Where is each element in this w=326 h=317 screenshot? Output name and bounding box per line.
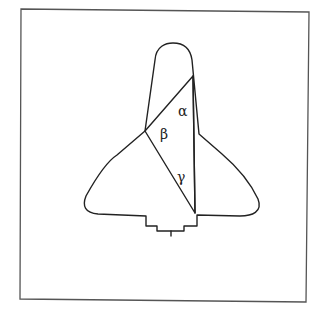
angle-beta-label: β xyxy=(160,126,168,142)
angle-gamma-label: γ xyxy=(177,169,185,185)
angle-alpha-label: α xyxy=(178,103,188,119)
diagram-frame xyxy=(20,9,309,302)
shuttle-outline xyxy=(84,43,259,231)
shuttle-diagram: α β γ xyxy=(0,0,326,317)
inscribed-triangle xyxy=(145,76,195,213)
tail-edge-line xyxy=(193,76,195,213)
